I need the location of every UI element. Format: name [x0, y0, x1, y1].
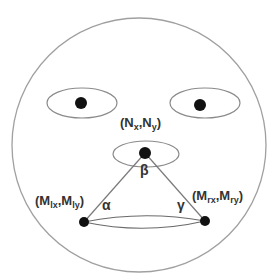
angle-beta-label: β — [140, 162, 149, 178]
nose-point-label: (Nx,Ny) — [120, 115, 161, 132]
right-mouth-label: (Mrx,Mry) — [192, 188, 243, 205]
left-eye — [47, 88, 117, 118]
left-mouth-label: (Mlx,Mly) — [35, 193, 84, 210]
triangle-right-edge — [145, 153, 205, 221]
left-pupil-dot — [75, 97, 87, 109]
mouth-outline — [84, 216, 205, 229]
nose-point-dot — [139, 147, 151, 159]
right-pupil-dot — [194, 99, 206, 111]
right-eye — [170, 88, 240, 118]
right-mouth-corner-dot — [200, 216, 210, 226]
angle-alpha-label: α — [102, 197, 111, 213]
face-outline — [12, 18, 266, 272]
left-mouth-corner-dot — [79, 217, 89, 227]
face-diagram: (Nx,Ny) (Mlx,Mly) (Mrx,Mry) β α γ — [0, 0, 278, 280]
triangle-left-edge — [84, 153, 145, 222]
angle-gamma-label: γ — [177, 197, 185, 213]
diagram-canvas: (Nx,Ny) (Mlx,Mly) (Mrx,Mry) β α γ — [0, 0, 278, 280]
